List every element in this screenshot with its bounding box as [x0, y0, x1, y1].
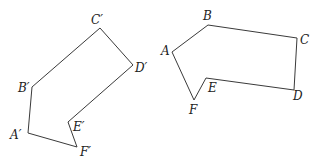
label-f: F	[188, 103, 198, 117]
label-c-prime: C′	[91, 13, 103, 27]
label-a: A	[160, 44, 170, 58]
label-e-prime: E′	[72, 120, 85, 134]
original-hexagon: A B C D E F	[160, 9, 309, 117]
label-f-prime: F′	[79, 145, 91, 159]
label-e: E	[207, 81, 217, 95]
label-b: B	[202, 9, 212, 23]
label-c: C	[300, 33, 309, 47]
image-hexagon: A′ B′ C′ D′ E′ F′	[9, 13, 148, 159]
label-a-prime: A′	[9, 128, 22, 142]
label-d: D	[292, 89, 303, 103]
hexagon-diagram: A′ B′ C′ D′ E′ F′ A B C D E F	[0, 0, 322, 167]
label-d-prime: D′	[134, 61, 148, 75]
hexagon-a-outline	[172, 25, 297, 100]
label-b-prime: B′	[17, 81, 30, 95]
